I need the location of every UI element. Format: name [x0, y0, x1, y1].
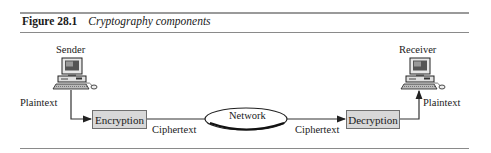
plaintext-out-arrow	[400, 91, 419, 119]
ciphertext-in-label: Ciphertext	[295, 124, 339, 135]
bottom-rule	[20, 148, 469, 149]
network-label: Network	[229, 110, 266, 121]
receiver-label: Receiver	[399, 44, 436, 55]
plaintext-out-label: Plaintext	[423, 97, 460, 108]
diagram-canvas	[0, 0, 491, 153]
sender-computer-icon	[53, 58, 97, 89]
plaintext-in-arrow	[71, 90, 91, 119]
receiver-computer-icon	[401, 58, 445, 89]
ciphertext-out-label: Ciphertext	[152, 124, 196, 135]
encryption-box: Encryption	[92, 110, 147, 129]
encryption-label: Encryption	[95, 114, 144, 126]
decryption-box: Decryption	[346, 110, 400, 129]
plaintext-in-label: Plaintext	[20, 97, 57, 108]
decryption-label: Decryption	[348, 114, 397, 126]
sender-label: Sender	[56, 44, 85, 55]
